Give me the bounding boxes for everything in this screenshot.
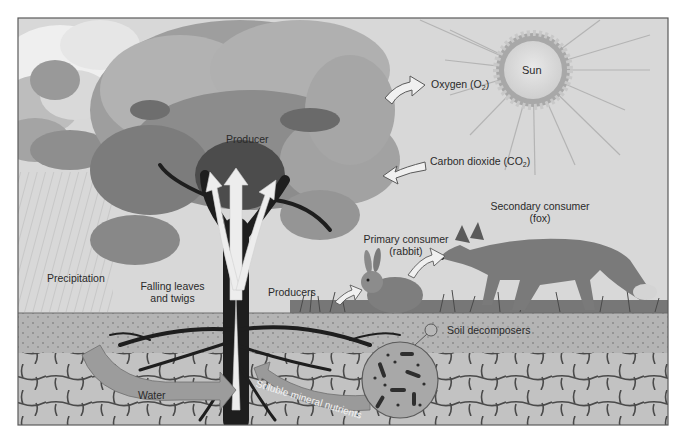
carbon-dioxide-label-close: ): [527, 155, 531, 167]
falling-leaves-line2: and twigs: [130, 292, 215, 304]
secondary-consumer-label: Secondary consumer (fox): [480, 200, 600, 224]
producer-label: Producer: [226, 133, 269, 145]
falling-leaves-label: Falling leaves and twigs: [130, 280, 215, 304]
water-label: Water: [138, 389, 166, 401]
carbon-dioxide-label: Carbon dioxide (CO2): [430, 155, 530, 171]
oxygen-label-close: ): [486, 78, 490, 90]
primary-consumer-line1: Primary consumer: [356, 233, 456, 245]
secondary-consumer-line1: Secondary consumer: [480, 200, 600, 212]
precipitation-label: Precipitation: [47, 272, 105, 284]
oxygen-label-text: Oxygen (O: [431, 78, 482, 90]
primary-consumer-line2: (rabbit): [356, 245, 456, 257]
carbon-dioxide-label-text: Carbon dioxide (CO: [430, 155, 523, 167]
grass-strip: [290, 300, 668, 314]
oxygen-label: Oxygen (O2): [431, 78, 489, 94]
sun-label: Sun: [522, 64, 542, 76]
producers-label: Producers: [268, 286, 316, 298]
falling-leaves-line1: Falling leaves: [130, 280, 215, 292]
secondary-consumer-line2: (fox): [480, 212, 600, 224]
soil-decomposers-label: Soil decomposers: [447, 324, 530, 336]
primary-consumer-label: Primary consumer (rabbit): [356, 233, 456, 257]
